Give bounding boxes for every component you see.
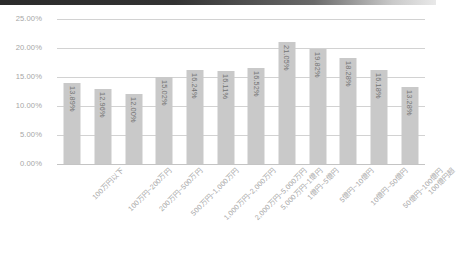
bar-chart: 0.00%5.00%10.00%15.00%20.00%25.00% 13.89… [0,5,436,255]
bar-value-label: 16.11% [222,74,229,99]
bar-slot: 21.05% [272,19,303,164]
bar-series: 13.89%12.96%12.00%15.02%16.24%16.11%16.5… [57,19,425,164]
bar-slot: 18.28% [333,19,364,164]
bar-slot: 15.02% [149,19,180,164]
y-axis-tick-label: 10.00% [0,102,42,110]
bar-value-label: 16.24% [191,73,198,99]
bar-slot: 12.00% [118,19,149,164]
bar-slot: 16.52% [241,19,272,164]
bar[interactable]: 18.28% [340,58,357,164]
bar-value-label: 16.52% [253,71,260,97]
y-axis-tick-label: 5.00% [0,131,42,139]
bar[interactable]: 21.05% [278,42,295,164]
y-axis-tick-label: 20.00% [0,44,42,52]
bar[interactable]: 13.89% [64,83,81,164]
bar[interactable]: 19.82% [309,49,326,164]
bar[interactable]: 16.24% [186,70,203,164]
bar-value-label: 19.82% [314,52,321,78]
bar[interactable]: 16.52% [248,68,265,164]
bar-slot: 16.18% [364,19,395,164]
bar-value-label: 21.05% [283,45,290,71]
bar[interactable]: 15.02% [156,77,173,164]
y-axis-tick-label: 0.00% [0,160,42,168]
bar[interactable]: 16.11% [217,71,234,164]
bar-slot: 16.11% [210,19,241,164]
bar-value-label: 12.00% [130,97,137,123]
bar[interactable]: 13.28% [401,87,418,164]
y-axis-tick-label: 15.00% [0,73,42,81]
bar-slot: 12.96% [88,19,119,164]
bar-slot: 13.28% [394,19,425,164]
x-axis-labels: 100万円以下100万円~200万円200万円~500万円500万円~1,000… [57,165,425,255]
bar-value-label: 16.18% [375,73,382,99]
bar-slot: 19.82% [302,19,333,164]
bar-slot: 16.24% [180,19,211,164]
bar[interactable]: 16.18% [370,70,387,164]
x-axis-category-label: 100万円以下 [91,167,125,201]
bar-value-label: 13.89% [69,86,76,112]
bar-slot: 13.89% [57,19,88,164]
y-axis-tick-label: 25.00% [0,15,42,23]
bar[interactable]: 12.00% [125,94,142,164]
x-axis-category-label: 5億円~10億円 [338,167,375,204]
bar-value-label: 15.02% [161,80,168,106]
bar-value-label: 13.28% [406,90,413,116]
bar[interactable]: 12.96% [94,89,111,164]
bar-value-label: 12.96% [99,92,106,118]
bar-value-label: 18.28% [345,61,352,87]
